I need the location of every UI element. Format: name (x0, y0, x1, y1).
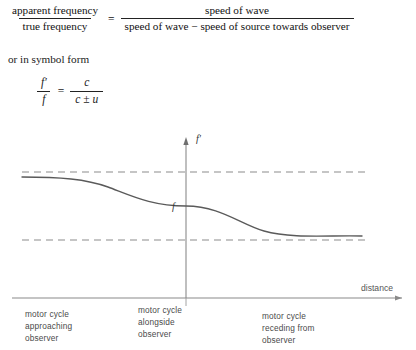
symbol-formula-left-denominator: f (37, 91, 50, 107)
symbol-formula-left-fraction: f′ f (36, 76, 52, 106)
symbol-formula-right-denominator: c ± u (70, 91, 103, 107)
true-frequency-label: f (172, 201, 175, 212)
caption-motor-cycle-approaching: motor cycle approaching observer (25, 309, 72, 344)
y-axis-arrowhead (183, 137, 188, 145)
word-formula-left-denominator: true frequency (19, 18, 92, 33)
or-in-symbol-form-text: or in symbol form (8, 53, 89, 65)
word-formula-equals-sign: = (102, 13, 121, 25)
word-formula-right-fraction: speed of wave speed of wave − speed of s… (121, 4, 354, 33)
apparent-frequency-curve (22, 177, 362, 236)
x-axis-label: distance (361, 283, 393, 293)
word-formula-left-numerator: apparent frequency (8, 4, 102, 18)
caption-motor-cycle-alongside: motor cycle alongside observer (138, 305, 182, 340)
x-axis-arrowhead (395, 296, 402, 301)
symbol-formula-right-fraction: c c ± u (70, 76, 103, 106)
word-formula-right-numerator: speed of wave (201, 4, 273, 18)
caption-motor-cycle-receding: motor cycle receding from observer (262, 311, 315, 346)
y-axis-label: f′ (196, 133, 201, 144)
symbol-formula-left-numerator: f′ (36, 76, 52, 91)
symbol-formula-right-numerator: c (79, 76, 94, 91)
doppler-word-formula: apparent frequency true frequency = spee… (8, 4, 408, 33)
word-formula-right-denominator: speed of wave − speed of source towards … (121, 18, 354, 33)
word-formula-left-fraction: apparent frequency true frequency (8, 4, 102, 33)
symbol-formula-equals-sign: = (52, 85, 71, 97)
doppler-symbol-formula: f′ f = c c ± u (36, 76, 103, 106)
